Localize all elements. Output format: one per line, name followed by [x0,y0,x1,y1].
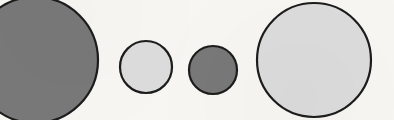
circles-figure [0,0,394,120]
circle-1 [0,0,98,120]
circle-3 [189,46,237,94]
figure-canvas [0,0,394,120]
circle-2 [120,41,172,93]
circle-4 [257,3,371,117]
